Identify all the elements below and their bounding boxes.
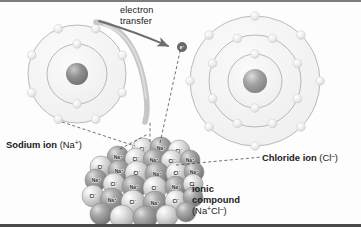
lattice-ion-charge: – (94, 193, 96, 197)
sodium-ion-electron (73, 100, 82, 109)
lattice-ion-chloride (110, 205, 134, 227)
ionic-formula-open: (Na (192, 205, 207, 216)
lattice-ion-charge: + (157, 200, 159, 204)
sodium-ion-electron (27, 88, 36, 97)
chloride-ion-electron (297, 31, 306, 40)
chloride-ion-electron (251, 142, 260, 151)
lattice-ion-charge: + (156, 157, 158, 161)
sodium-ion-label: Sodium ion (Na+) (6, 140, 82, 151)
leader-crystal-right (160, 47, 181, 143)
chloride-ion-electron (233, 34, 242, 43)
ionic-bonding-figure: Cl–Na+Cl–Na+Cl–Na+Cl–Na+Cl–Na+Cl–Na+Cl–N… (0, 0, 361, 227)
chloride-ion-electron (268, 34, 277, 43)
lattice-ion-chloride (156, 205, 178, 227)
lattice-ion-charge: + (114, 197, 116, 201)
lattice-ion-charge: – (156, 185, 158, 189)
sodium-ion-electron (91, 24, 100, 33)
lattice-ion-charge: + (192, 157, 194, 161)
lattice-ion-charge: + (121, 168, 123, 172)
lattice-ion-charge: – (144, 146, 146, 150)
chloride-ion-electron (186, 77, 195, 86)
chloride-ion-electron (293, 59, 302, 68)
sodium-ion-electron (91, 115, 100, 124)
lattice-ion-charge: – (177, 198, 179, 202)
lattice-ion-charge: – (115, 181, 117, 185)
lattice-ion-sodium (90, 203, 112, 225)
lattice-ion-sphere (90, 203, 112, 225)
sodium-ion-electron (118, 51, 127, 60)
lattice-ion-charge: – (138, 170, 140, 174)
transferred-electron: e– (177, 42, 186, 51)
crystal-lattice: Cl–Na+Cl–Na+Cl–Na+Cl–Na+Cl–Na+Cl–Na+Cl–N… (82, 137, 204, 227)
lattice-ion-charge: + (178, 184, 180, 188)
chloride-ion-electron (205, 31, 214, 40)
lattice-ion-sphere (156, 205, 178, 227)
electron-transfer-line1: electron (120, 5, 154, 16)
lattice-ion-charge: – (178, 170, 180, 174)
lattice-ion-charge: – (173, 158, 175, 162)
lattice-ion-charge: + (120, 154, 122, 158)
sodium-ion-electron (118, 88, 127, 97)
ionic-formula-close: ) (223, 205, 226, 216)
lattice-ion-charge: + (136, 184, 138, 188)
chloride-ion-electron (251, 50, 260, 59)
electron-marker-charge: – (182, 44, 184, 48)
electron-transfer-line2: transfer (120, 16, 154, 27)
chloride-ion-electron (205, 123, 214, 132)
sodium-ion-formula-close: ) (79, 139, 82, 150)
chloride-ion-electron (233, 119, 242, 128)
chloride-ion-electron (251, 12, 260, 21)
sodium-ion-electron (73, 40, 82, 49)
ionic-compound-label: ionic compound (Na+Cl–) (192, 184, 240, 216)
chloride-ion-nucleus (243, 69, 267, 93)
chloride-ion-electron (297, 123, 306, 132)
sodium-ion-nucleus (66, 63, 88, 85)
lattice-ion-sphere (110, 205, 134, 227)
chloride-ion-label: Chloride ion (Cl–) (262, 153, 338, 164)
chloride-ion-label-text: Chloride ion (262, 152, 317, 163)
lattice-ion-charge: + (159, 171, 161, 175)
ionic-compound-formula: (Na+Cl–) (192, 206, 240, 217)
sodium-ion-electron (27, 51, 36, 60)
electron-transfer-label: electron transfer (120, 5, 154, 26)
sodium-ion-electron (54, 115, 63, 124)
chloride-ion-electron (251, 104, 260, 113)
sodium-ion-label-text: Sodium ion (6, 139, 57, 150)
lattice-ion-charge: – (102, 164, 104, 168)
lattice-ion-sphere (133, 206, 157, 227)
chloride-ion-electron (208, 59, 217, 68)
chloride-ion-electron (208, 94, 217, 103)
chloride-ion-electron (316, 77, 325, 86)
lattice-ion-charge: – (180, 148, 182, 152)
chloride-ion-formula-open: (Cl (319, 152, 331, 163)
lattice-ion-charge: – (137, 156, 139, 160)
ionic-formula-mid: Cl (211, 205, 220, 216)
lattice-ion-charge: – (134, 199, 136, 203)
diagram-artwork: Cl–Na+Cl–Na+Cl–Na+Cl–Na+Cl–Na+Cl–Na+Cl–N… (0, 2, 361, 227)
lattice-ion-charge: + (98, 177, 100, 181)
chloride-ion (186, 12, 325, 151)
sodium-ion (27, 24, 126, 123)
lattice-ion-sodium (133, 206, 157, 227)
sodium-ion-formula-open: (Na (60, 139, 75, 150)
lattice-ion-charge: + (196, 169, 198, 173)
chloride-ion-electron (293, 94, 302, 103)
sodium-ion-electron (54, 24, 63, 33)
chloride-ion-electron (268, 119, 277, 128)
atom-diagrams (27, 12, 324, 151)
diagram-stage: Cl–Na+Cl–Na+Cl–Na+Cl–Na+Cl–Na+Cl–Na+Cl–N… (0, 2, 361, 224)
lattice-ion-charge: + (163, 145, 165, 149)
chloride-ion-formula-close: ) (335, 152, 338, 163)
